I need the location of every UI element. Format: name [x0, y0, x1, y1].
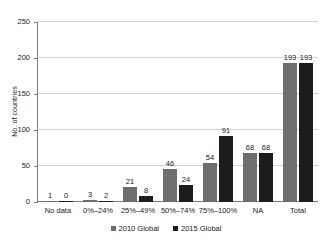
bar-group: 4624: [163, 22, 193, 202]
plot-area: 1032218462454916868193193: [38, 22, 318, 202]
legend-swatch-icon: [111, 226, 116, 231]
legend-label: 2010 Global: [119, 224, 159, 233]
bar-value-label: 193: [295, 53, 317, 62]
x-axis-label: Total: [268, 206, 328, 215]
chart-legend: 2010 Global 2015 Global: [0, 224, 332, 233]
bar-value-label: 24: [175, 175, 197, 184]
bar[interactable]: [299, 63, 313, 202]
y-tick-mark: [34, 202, 38, 203]
bar[interactable]: [243, 153, 257, 202]
bar[interactable]: [59, 201, 73, 202]
bar-value-label: 8: [135, 186, 157, 195]
bar[interactable]: [83, 200, 97, 202]
bar-group: 193193: [283, 22, 313, 202]
y-tick-label: 200: [4, 53, 30, 62]
bar-value-label: 2: [95, 191, 117, 200]
bar-group: 32: [83, 22, 113, 202]
bar-value-label: 0: [55, 191, 77, 200]
bar-value-label: 21: [119, 177, 141, 186]
y-tick-label: 250: [4, 17, 30, 26]
bar-group: 218: [123, 22, 153, 202]
bar[interactable]: [259, 153, 273, 202]
y-tick-label: 150: [4, 89, 30, 98]
bar-value-label: 91: [215, 126, 237, 135]
bar[interactable]: [139, 196, 153, 202]
bar-group: 5491: [203, 22, 233, 202]
legend-item-2015[interactable]: 2015 Global: [173, 224, 221, 233]
bar[interactable]: [203, 163, 217, 202]
y-tick-label: 100: [4, 125, 30, 134]
y-tick-label: 50: [4, 161, 30, 170]
y-axis-title: No. of countries: [11, 69, 18, 155]
bar-value-label: 46: [159, 159, 181, 168]
bar-chart: No. of countries 050100150200250 1032218…: [0, 0, 332, 245]
bar[interactable]: [283, 63, 297, 202]
bar-group: 10: [43, 22, 73, 202]
y-tick-label: 0: [4, 197, 30, 206]
bar[interactable]: [99, 201, 113, 203]
bar-group: 6868: [243, 22, 273, 202]
bar-value-label: 68: [255, 143, 277, 152]
legend-item-2010[interactable]: 2010 Global: [111, 224, 159, 233]
bar[interactable]: [219, 136, 233, 202]
bar[interactable]: [179, 185, 193, 202]
legend-swatch-icon: [173, 226, 178, 231]
bar-value-label: 54: [199, 153, 221, 162]
bar[interactable]: [43, 201, 57, 203]
legend-label: 2015 Global: [181, 224, 221, 233]
